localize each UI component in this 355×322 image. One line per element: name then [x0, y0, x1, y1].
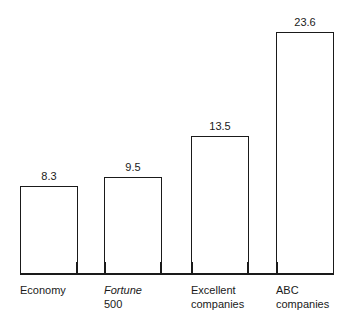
bar-economy[interactable] — [20, 186, 78, 274]
x-axis-baseline — [20, 273, 334, 275]
category-label-abc-companies-line2: companies — [276, 298, 329, 310]
axis-tick-3 — [160, 262, 162, 274]
bar-value-abc-companies: 23.6 — [276, 16, 334, 28]
bar-chart: 8.3 9.5 13.5 23.6 Economy Fortune 500 Ex… — [0, 0, 355, 322]
category-label-fortune-500-line1: Fortune — [104, 284, 142, 296]
plot-area: 8.3 9.5 13.5 23.6 Economy Fortune 500 Ex… — [0, 0, 355, 322]
bar-value-economy: 8.3 — [20, 170, 78, 182]
bar-abc-companies[interactable] — [276, 32, 334, 274]
axis-tick-5 — [247, 262, 249, 274]
category-label-abc-companies-line1: ABC — [276, 284, 299, 296]
bar-value-fortune-500: 9.5 — [104, 161, 162, 173]
category-label-excellent-companies-line1: Excellent — [191, 284, 236, 296]
category-label-economy-line1: Economy — [20, 284, 66, 296]
axis-tick-4 — [191, 262, 193, 274]
category-label-abc-companies: ABC companies — [276, 284, 329, 311]
category-label-economy: Economy — [20, 284, 66, 298]
axis-tick-2 — [104, 262, 106, 274]
category-label-excellent-companies-line2: companies — [191, 298, 244, 310]
bar-value-excellent-companies: 13.5 — [191, 120, 249, 132]
category-label-excellent-companies: Excellent companies — [191, 284, 244, 311]
category-label-fortune-500-line2: 500 — [104, 298, 122, 310]
category-label-fortune-500: Fortune 500 — [104, 284, 142, 311]
axis-tick-1 — [76, 262, 78, 274]
axis-tick-6 — [276, 262, 278, 274]
bar-fortune-500[interactable] — [104, 177, 162, 274]
bar-excellent-companies[interactable] — [191, 136, 249, 274]
